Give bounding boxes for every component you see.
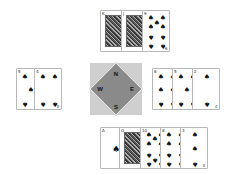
card-index: 2 [194, 70, 197, 74]
spade-icon: ♠ [148, 42, 154, 49]
north-hand: K K J J 9 ♠ ♠ ♠ ♠ ♠ ♠ ♠ ♠ ♠ 9 [100, 10, 170, 52]
card-index: 5 [18, 70, 21, 74]
card-index: 8 [162, 129, 165, 133]
spade-icon: ♠ [22, 100, 28, 107]
card-index: 9 [144, 12, 147, 16]
spade-icon: ♠ [146, 141, 152, 148]
compass-south-label: S [114, 104, 118, 110]
spade-icon: ♠ [204, 100, 210, 107]
card-index: 5 [174, 70, 177, 74]
spade-icon: ♠ [166, 160, 172, 167]
spade-icon: ♠ [158, 87, 164, 94]
compass-north-label: N [114, 71, 118, 77]
spade-icon: ♠ [192, 132, 198, 139]
spade-icon: ♠ [178, 100, 184, 107]
spade-icon: ♠ [178, 74, 184, 81]
spade-icon: ♠ [40, 100, 46, 107]
spade-icon: ♠ [158, 100, 164, 107]
spade-icon: ♠ [204, 74, 210, 81]
spade-icon: ♠ [160, 15, 166, 22]
spade-icon: ♠ [52, 74, 58, 81]
spade-icon: ♠ [192, 160, 198, 167]
spade-icon: ♠ [158, 74, 164, 81]
spade-icon: ♠ [22, 74, 28, 81]
compass-east-label: E [130, 86, 134, 92]
east-card-3[interactable]: 2 ♠ ♠ 2 [192, 68, 220, 110]
card-index: 3 [203, 163, 206, 167]
spade-icon: ♠ [166, 151, 172, 158]
south-hand: A ♠ A Q Q 10 ♠ ♠ ♠ ♠ ♠ ♠ ♠ ♠ ♠ ♠ 10 8 ♠ … [100, 127, 210, 169]
west-card-2[interactable]: 4 ♠ ♠ ♠ ♠ 4 [34, 68, 62, 110]
spade-icon: ♠ [160, 24, 166, 31]
spade-icon: ♠ [154, 20, 160, 27]
spade-icon: ♠ [160, 33, 166, 40]
spade-icon: ♠ [192, 146, 198, 153]
card-index: 3 [182, 129, 185, 133]
north-card-3[interactable]: 9 ♠ ♠ ♠ ♠ ♠ ♠ ♠ ♠ ♠ 9 [142, 10, 170, 52]
card-index: J [123, 12, 124, 16]
spade-icon: ♠ [184, 87, 190, 94]
card-index: 2 [215, 104, 218, 108]
compass-west-label: W [97, 86, 103, 92]
west-hand: 5 ♠ ♠ ♠ ♠ ♠ 5 4 ♠ ♠ ♠ ♠ 4 [16, 68, 66, 110]
spade-icon: ♠ [166, 132, 172, 139]
card-index: A [102, 129, 105, 133]
spade-icon: ♠ [146, 160, 152, 167]
card-index: 4 [36, 70, 39, 74]
east-hand: 6 ♠ ♠ ♠ ♠ ♠ ♠ 6 5 ♠ ♠ ♠ ♠ ♠ 5 2 ♠ ♠ 2 [152, 68, 222, 110]
spade-icon: ♠ [166, 141, 172, 148]
spade-icon: ♠ [148, 33, 154, 40]
card-index: 4 [57, 104, 60, 108]
south-card-5[interactable]: 3 ♠ ♠ ♠ 3 [180, 127, 208, 169]
card-index: 9 [165, 46, 168, 50]
spade-icon: ♠ [40, 74, 46, 81]
card-index: 6 [154, 70, 157, 74]
